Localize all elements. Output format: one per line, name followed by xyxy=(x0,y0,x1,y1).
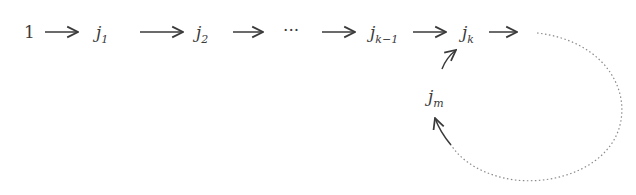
dotted-cycle-arc xyxy=(451,33,622,181)
arrow-cycle-to-jm xyxy=(435,118,451,145)
node-jk-minus-1: jk−1 xyxy=(370,24,398,44)
node-j1: j1 xyxy=(96,24,108,44)
node-jm: jm xyxy=(428,88,444,108)
node-ellipsis: ··· xyxy=(283,22,299,39)
node-1: 1 xyxy=(24,24,35,41)
arrow-jm-to-jk xyxy=(442,50,456,69)
node-j2: j2 xyxy=(196,24,208,44)
node-jk: jk xyxy=(462,24,474,44)
